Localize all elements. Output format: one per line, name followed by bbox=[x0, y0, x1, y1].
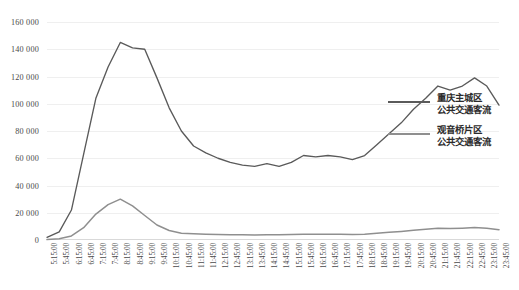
y-axis-tick-label: 160 000 bbox=[11, 18, 39, 27]
legend-line-swatch bbox=[388, 133, 430, 135]
x-axis-tick-label: 13:45:00 bbox=[258, 243, 267, 268]
x-axis-tick-label: 14:15:00 bbox=[270, 243, 279, 268]
x-axis-tick-label: 11:45:00 bbox=[209, 243, 218, 268]
chart-legend: 重庆主城区 公共交通客流观音桥片区 公共交通客流 bbox=[388, 92, 516, 156]
x-axis-tick-label: 12:45:00 bbox=[233, 243, 242, 268]
x-axis-tick-label: 12:15:00 bbox=[221, 243, 230, 268]
x-axis-tick-label: 15:45:00 bbox=[307, 243, 316, 268]
legend-entry-2[interactable]: 观音桥片区 公共交通客流 bbox=[388, 124, 516, 147]
y-axis-tick-label: 100 000 bbox=[11, 99, 39, 108]
series-line-2 bbox=[47, 199, 499, 239]
x-axis-tick-label: 8:45:00 bbox=[136, 243, 145, 265]
x-axis-tick-label: 22:15:00 bbox=[466, 243, 475, 268]
x-axis-tick-label: 20:15:00 bbox=[417, 243, 426, 268]
x-axis-tick-label: 16:15:00 bbox=[319, 243, 328, 268]
x-axis-tick-label: 6:15:00 bbox=[75, 243, 84, 265]
x-axis-tick-label: 15:15:00 bbox=[295, 243, 304, 268]
y-axis-tick-label: 120 000 bbox=[11, 72, 39, 81]
x-axis-tick-label: 14:45:00 bbox=[282, 243, 291, 268]
y-axis-tick-label: 60 000 bbox=[15, 154, 39, 163]
x-axis-tick-label: 20:45:00 bbox=[429, 243, 438, 268]
x-axis-tick-label: 21:45:00 bbox=[453, 243, 462, 268]
x-axis-tick-label: 8:15:00 bbox=[123, 243, 132, 265]
legend-entry-1[interactable]: 重庆主城区 公共交通客流 bbox=[388, 92, 516, 115]
x-axis-tick-label: 7:15:00 bbox=[99, 243, 108, 265]
x-axis-tick-label: 19:45:00 bbox=[404, 243, 413, 268]
legend-label: 重庆主城区 公共交通客流 bbox=[437, 92, 491, 115]
y-axis-tick-label: 140 000 bbox=[11, 45, 39, 54]
x-axis-tick-label: 21:15:00 bbox=[441, 243, 450, 268]
x-axis-tick-label: 22:45:00 bbox=[478, 243, 487, 268]
x-axis-tick-label: 18:45:00 bbox=[380, 243, 389, 268]
x-axis-tick-label: 5:45:00 bbox=[62, 243, 71, 265]
x-axis-tick-label: 18:15:00 bbox=[368, 243, 377, 268]
legend-label: 观音桥片区 公共交通客流 bbox=[437, 124, 491, 147]
x-axis-tick-label: 9:45:00 bbox=[160, 243, 169, 265]
x-axis-tick-label: 19:15:00 bbox=[392, 243, 401, 268]
x-axis-tick-label: 6:45:00 bbox=[87, 243, 96, 265]
x-axis-tick-label: 10:45:00 bbox=[185, 243, 194, 268]
x-axis-tick-label: 5:15:00 bbox=[50, 243, 59, 265]
x-axis-tick-label: 23:45:00 bbox=[502, 243, 511, 268]
x-axis-tick-label: 10:15:00 bbox=[172, 243, 181, 268]
x-axis-tick-label: 17:45:00 bbox=[356, 243, 365, 268]
x-axis-tick-label: 17:15:00 bbox=[343, 243, 352, 268]
y-axis-tick-label: 0 bbox=[35, 236, 39, 245]
line-chart: 020 00040 00060 00080 000100 000120 0001… bbox=[0, 0, 519, 290]
x-axis-tick-label: 16:45:00 bbox=[331, 243, 340, 268]
y-axis-tick-label: 80 000 bbox=[15, 127, 39, 136]
x-axis-tick-label: 7:45:00 bbox=[111, 243, 120, 265]
x-axis-tick-label: 11:15:00 bbox=[197, 243, 206, 268]
y-axis: 020 00040 00060 00080 000100 000120 0001… bbox=[0, 22, 43, 240]
legend-line-swatch bbox=[388, 101, 430, 103]
x-axis: 5:15:005:45:006:15:006:45:007:15:007:45:… bbox=[47, 243, 499, 290]
x-axis-tick-label: 13:15:00 bbox=[246, 243, 255, 268]
y-axis-tick-label: 20 000 bbox=[15, 208, 39, 217]
x-axis-tick-label: 23:15:00 bbox=[490, 243, 499, 268]
y-axis-tick-label: 40 000 bbox=[15, 181, 39, 190]
x-axis-tick-label: 9:15:00 bbox=[148, 243, 157, 265]
